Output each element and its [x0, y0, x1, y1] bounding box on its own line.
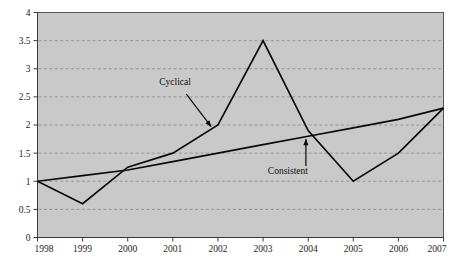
annotation-label-consistent: Consistent [268, 166, 308, 176]
x-tick-label: 2001 [163, 244, 182, 254]
x-tick-label: 1999 [73, 244, 92, 254]
y-tick-label: 2 [26, 120, 31, 130]
y-tick-label: 2.5 [19, 92, 31, 102]
x-tick-label: 2007 [428, 244, 447, 254]
x-tick-label: 2005 [344, 244, 363, 254]
x-tick-label: 2004 [299, 244, 318, 254]
y-tick-label: 0 [26, 233, 31, 243]
y-tick-label: 3 [26, 64, 31, 74]
chart-container: 00.511.522.533.54 1998199920002001200220… [0, 0, 470, 268]
y-tick-label: 0.5 [19, 205, 31, 215]
line-chart: 00.511.522.533.54 1998199920002001200220… [0, 0, 470, 268]
y-tick-label: 3.5 [19, 36, 31, 46]
x-tick-label: 2000 [118, 244, 137, 254]
x-tick-label: 2002 [208, 244, 227, 254]
x-tick-label: 2006 [389, 244, 408, 254]
x-tick-label: 2003 [254, 244, 273, 254]
y-tick-label: 1.5 [19, 149, 31, 159]
y-tick-label: 1 [26, 177, 31, 187]
annotation-label-cyclical: Cyclical [159, 77, 191, 87]
y-tick-label: 4 [26, 8, 31, 18]
x-tick-label: 1998 [35, 244, 54, 254]
